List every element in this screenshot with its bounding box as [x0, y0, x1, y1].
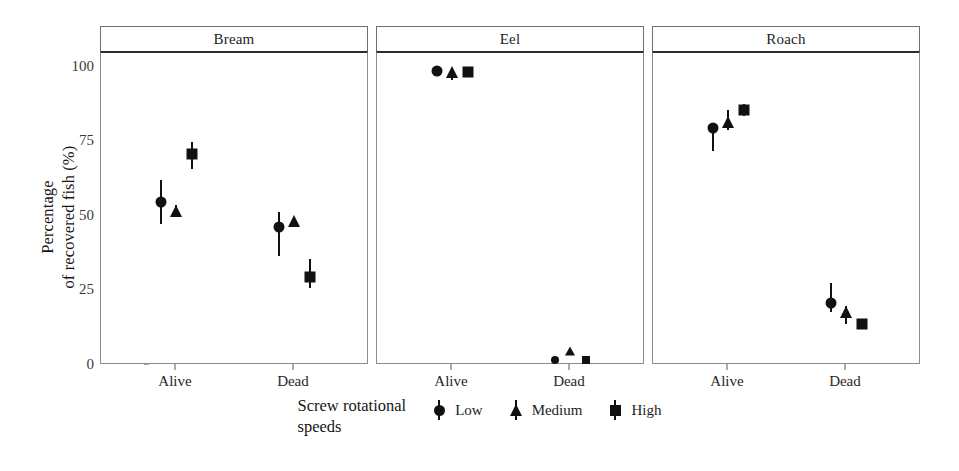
legend-items: LowMediumHigh	[432, 399, 661, 421]
y-tick-label: 25	[48, 281, 94, 298]
data-point-square	[186, 149, 197, 160]
legend: Screw rotational speeds LowMediumHigh	[0, 398, 959, 437]
x-tickmark	[568, 364, 569, 370]
data-point-triangle	[288, 215, 300, 227]
plot-area-eel	[376, 51, 644, 364]
x-tickmark	[727, 364, 728, 370]
panel-strip-bream: Bream	[100, 26, 368, 52]
x-tickmark	[292, 364, 293, 370]
plot-area-roach	[652, 51, 920, 364]
legend-square-icon	[610, 405, 621, 416]
data-point-triangle	[722, 116, 734, 128]
legend-item-medium[interactable]: Medium	[509, 399, 583, 421]
panel-eel: Eel	[376, 26, 644, 364]
legend-item-high[interactable]: High	[608, 399, 661, 421]
panel-strip-label: Roach	[766, 31, 805, 48]
data-point-triangle	[565, 347, 575, 356]
data-point-circle	[274, 222, 285, 233]
y-tick-label: 75	[48, 132, 94, 149]
panel-strip-eel: Eel	[376, 26, 644, 52]
faceted-scatter-chart: Percentage of recovered fish (%) 1007550…	[0, 0, 959, 471]
legend-key-triangle-icon	[509, 399, 523, 421]
data-point-square	[304, 271, 315, 282]
panel-strip-label: Bream	[214, 31, 255, 48]
data-point-square	[582, 356, 590, 364]
plot-area-bream	[100, 51, 368, 364]
data-point-circle	[156, 197, 167, 208]
legend-label: Low	[455, 402, 483, 419]
y-tick-label: 100	[48, 57, 94, 74]
data-point-circle	[708, 122, 719, 133]
legend-label: High	[631, 402, 661, 419]
x-tick-label: Alive	[158, 373, 191, 390]
data-point-triangle	[840, 306, 852, 318]
legend-circle-icon	[434, 405, 445, 416]
x-tick-label: Alive	[710, 373, 743, 390]
data-point-circle	[432, 65, 443, 76]
x-tickmark	[451, 364, 452, 370]
legend-label: Medium	[532, 402, 583, 419]
legend-key-square-icon	[608, 399, 622, 421]
data-layer	[377, 53, 643, 363]
error-bar	[278, 212, 280, 255]
panel-strip-roach: Roach	[652, 26, 920, 52]
data-point-triangle	[446, 66, 458, 78]
x-tickmark	[175, 364, 176, 370]
panel-bream: Bream	[100, 26, 368, 364]
x-tick-label: Dead	[553, 373, 585, 390]
y-tick-label: 50	[48, 206, 94, 223]
data-point-square	[462, 67, 473, 78]
x-tick-label: Alive	[434, 373, 467, 390]
legend-key-circle-icon	[432, 399, 446, 421]
legend-title: Screw rotational speeds	[298, 396, 407, 437]
data-point-circle	[551, 356, 559, 364]
data-point-triangle	[170, 205, 182, 217]
x-tickmark	[844, 364, 845, 370]
x-tick-label: Dead	[829, 373, 861, 390]
legend-triangle-icon	[510, 404, 522, 416]
x-tick-label: Dead	[277, 373, 309, 390]
panel-strip-label: Eel	[500, 31, 521, 48]
data-layer	[653, 53, 919, 363]
data-point-square	[856, 319, 867, 330]
data-point-square	[738, 104, 749, 115]
legend-item-low[interactable]: Low	[432, 399, 483, 421]
y-tick-label: 0	[48, 356, 94, 373]
panel-roach: Roach	[652, 26, 920, 364]
data-layer	[101, 53, 367, 363]
data-point-circle	[826, 298, 837, 309]
